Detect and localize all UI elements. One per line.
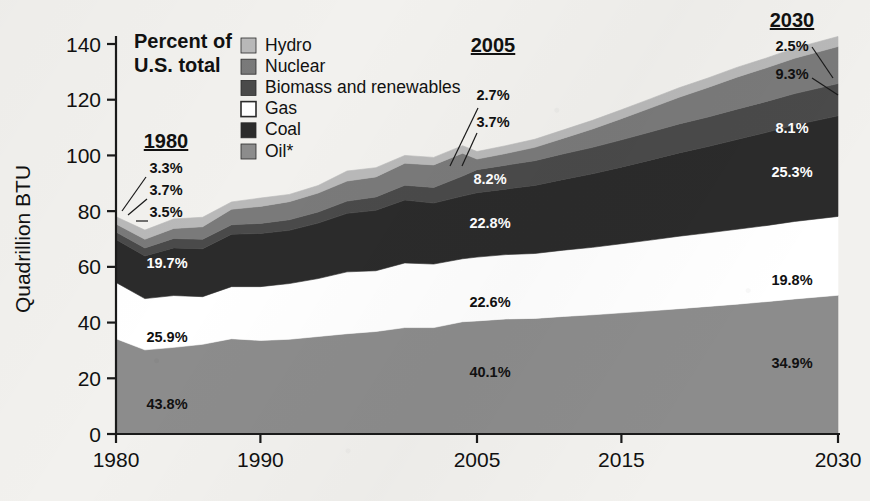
annotation-value-oil: 34.9% [771, 355, 812, 371]
legend-label: Oil* [265, 141, 293, 161]
legend-swatch [241, 102, 256, 117]
legend-label: Gas [265, 98, 297, 118]
y-tick-label: 100 [66, 144, 101, 167]
stacked-area-chart: 02040608010012014019801990200520152030Qu… [0, 0, 870, 501]
chart-page: 02040608010012014019801990200520152030Qu… [0, 0, 870, 501]
y-tick-label: 20 [78, 367, 101, 390]
annotation-year-2030: 2030 [770, 9, 815, 31]
x-tick-label: 2030 [815, 448, 862, 471]
legend-swatch [241, 59, 256, 74]
annotation-value-coal: 25.3% [771, 164, 812, 180]
y-tick-label: 120 [66, 88, 101, 111]
legend-swatch [241, 144, 256, 159]
x-tick-label: 1980 [93, 448, 140, 471]
legend-label: Coal [265, 119, 301, 139]
legend-label: Biomass and renewables [265, 77, 461, 97]
annotation-value-nuclear: 3.7% [476, 114, 509, 130]
annotation-value-gas: 19.8% [771, 272, 812, 288]
annotation-value-biomass-and-renewables: 8.2% [473, 171, 506, 187]
y-axis-title: Quadrillion BTU [11, 165, 34, 313]
header-note-line2: U.S. total [134, 54, 221, 76]
annotation-value-nuclear: 9.3% [775, 66, 808, 82]
annotation-value-biomass-and-renewables: 3.5% [149, 204, 182, 220]
annotation-year-2005: 2005 [471, 34, 516, 56]
annotation-value-hydro: 3.3% [149, 160, 182, 176]
y-tick-label: 0 [89, 423, 101, 446]
x-tick-label: 1990 [237, 448, 284, 471]
y-tick-label: 80 [78, 200, 101, 223]
annotation-value-coal: 22.8% [469, 215, 510, 231]
annotation-leader-line [122, 177, 146, 211]
annotation-value-gas: 25.9% [146, 329, 187, 345]
annotation-value-nuclear: 3.7% [149, 182, 182, 198]
annotation-value-oil: 40.1% [469, 364, 510, 380]
y-tick-label: 60 [78, 255, 101, 278]
legend-swatch [241, 80, 256, 95]
annotation-year-1980: 1980 [144, 130, 189, 152]
x-tick-label: 2015 [598, 448, 645, 471]
annotation-value-gas: 22.6% [469, 294, 510, 310]
annotation-value-biomass-and-renewables: 8.1% [775, 120, 808, 136]
x-tick-label: 2005 [454, 448, 501, 471]
legend-swatch [241, 38, 256, 53]
annotation-value-hydro: 2.5% [775, 38, 808, 54]
annotation-value-coal: 19.7% [146, 255, 187, 271]
annotation-value-oil: 43.8% [146, 396, 187, 412]
header-note-line1: Percent of [134, 30, 232, 52]
legend-label: Nuclear [265, 56, 325, 76]
annotation-value-hydro: 2.7% [476, 87, 509, 103]
y-tick-label: 140 [66, 33, 101, 56]
y-tick-label: 40 [78, 311, 101, 334]
legend-label: Hydro [265, 35, 312, 55]
legend-swatch [241, 123, 256, 138]
legend: HydroNuclearBiomass and renewablesGasCoa… [241, 35, 461, 161]
header-note: Percent ofU.S. total [134, 30, 232, 76]
annotation-leader-line [128, 199, 147, 215]
